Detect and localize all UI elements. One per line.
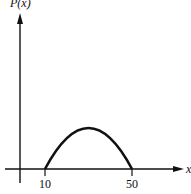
y-axis-arrow-icon	[17, 13, 23, 24]
plot-area	[0, 0, 191, 194]
x-axis-label: x	[186, 163, 191, 175]
p-curve	[45, 128, 132, 169]
y-axis-label: P(x)	[10, 0, 31, 9]
tick-label-10: 10	[39, 178, 51, 190]
tick-label-50: 50	[126, 178, 138, 190]
profit-function-graph: P(x) x 10 50	[0, 0, 191, 194]
x-axis-arrow-icon	[173, 166, 184, 172]
